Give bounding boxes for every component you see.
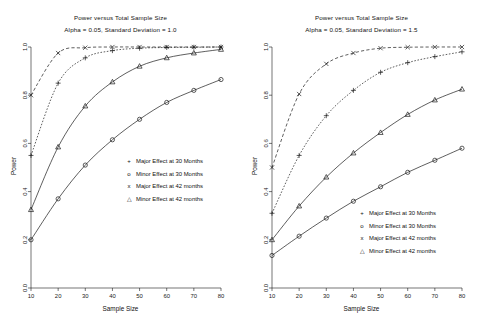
- legend-symbol-icon: x: [355, 235, 369, 241]
- legend-label: Minor Effect at 30 Months: [136, 171, 203, 177]
- legend-symbol-icon: △: [122, 195, 136, 202]
- legend-label: Major Effect at 42 months: [136, 183, 203, 189]
- svg-text:70: 70: [191, 293, 198, 299]
- legend-item: +Major Effect at 30 Months: [355, 207, 436, 220]
- legend-symbol-icon: +: [355, 210, 369, 216]
- legend-symbol-icon: △: [355, 247, 369, 254]
- svg-text:0.2: 0.2: [22, 236, 28, 244]
- legend-label: Major Effect at 42 months: [369, 235, 436, 241]
- svg-text:50: 50: [377, 293, 384, 299]
- svg-text:60: 60: [404, 293, 411, 299]
- legend-label: Major Effect at 30 Months: [369, 210, 436, 216]
- svg-text:20: 20: [296, 293, 303, 299]
- svg-text:1.0: 1.0: [263, 42, 269, 51]
- legend-label: Minor Effect at 30 Months: [369, 223, 436, 229]
- svg-text:0.8: 0.8: [22, 90, 28, 99]
- svg-text:1.0: 1.0: [22, 42, 28, 51]
- svg-text:0.0: 0.0: [22, 283, 28, 292]
- power-curves-figure: Power versus Total Sample Size Alpha = 0…: [0, 0, 482, 332]
- panel-left: Power versus Total Sample Size Alpha = 0…: [0, 0, 241, 332]
- svg-text:0.8: 0.8: [263, 90, 269, 99]
- legend-item: xMajor Effect at 42 months: [122, 180, 203, 193]
- panel-left-svg: 0.00.20.40.60.81.01020304050607080: [0, 0, 241, 332]
- panel-left-plot: 0.00.20.40.60.81.01020304050607080: [0, 0, 241, 332]
- svg-text:40: 40: [350, 293, 357, 299]
- svg-text:0.4: 0.4: [263, 187, 269, 196]
- svg-text:30: 30: [82, 293, 89, 299]
- panel-left-xlabel: Sample Size: [0, 305, 241, 312]
- panel-right-ylabel: Power: [251, 157, 258, 175]
- legend-item: oMinor Effect at 30 Months: [355, 220, 436, 233]
- svg-text:40: 40: [109, 293, 116, 299]
- svg-text:0.6: 0.6: [263, 139, 269, 148]
- panel-left-legend: +Major Effect at 30 MonthsoMinor Effect …: [122, 155, 203, 205]
- panel-right: Power versus Total Sample Size Alpha = 0…: [241, 0, 482, 332]
- legend-item: xMajor Effect at 42 months: [355, 232, 436, 245]
- svg-text:0.0: 0.0: [263, 283, 269, 292]
- svg-text:20: 20: [55, 293, 62, 299]
- panel-right-svg: 0.00.20.40.60.81.01020304050607080: [241, 0, 482, 332]
- svg-text:30: 30: [323, 293, 330, 299]
- panel-right-plot: 0.00.20.40.60.81.01020304050607080: [241, 0, 482, 332]
- legend-item: oMinor Effect at 30 Months: [122, 168, 203, 181]
- legend-label: Minor Effect at 42 months: [136, 196, 203, 202]
- panel-left-ylabel: Power: [10, 157, 17, 175]
- legend-item: △Minor Effect at 42 months: [122, 193, 203, 206]
- svg-text:60: 60: [163, 293, 170, 299]
- legend-symbol-icon: x: [122, 183, 136, 189]
- svg-text:10: 10: [28, 293, 35, 299]
- svg-text:10: 10: [269, 293, 276, 299]
- svg-text:80: 80: [218, 293, 225, 299]
- svg-text:0.4: 0.4: [22, 187, 28, 196]
- legend-label: Minor Effect at 42 months: [369, 248, 436, 254]
- svg-text:0.6: 0.6: [22, 139, 28, 148]
- legend-symbol-icon: o: [355, 223, 369, 229]
- svg-text:80: 80: [459, 293, 466, 299]
- legend-item: +Major Effect at 30 Months: [122, 155, 203, 168]
- svg-text:0.2: 0.2: [263, 236, 269, 244]
- legend-label: Major Effect at 30 Months: [136, 158, 203, 164]
- panel-right-xlabel: Sample Size: [241, 305, 482, 312]
- legend-item: △Minor Effect at 42 months: [355, 245, 436, 258]
- panel-right-legend: +Major Effect at 30 MonthsoMinor Effect …: [355, 207, 436, 257]
- svg-text:50: 50: [136, 293, 143, 299]
- svg-text:70: 70: [432, 293, 439, 299]
- legend-symbol-icon: +: [122, 158, 136, 164]
- legend-symbol-icon: o: [122, 171, 136, 177]
